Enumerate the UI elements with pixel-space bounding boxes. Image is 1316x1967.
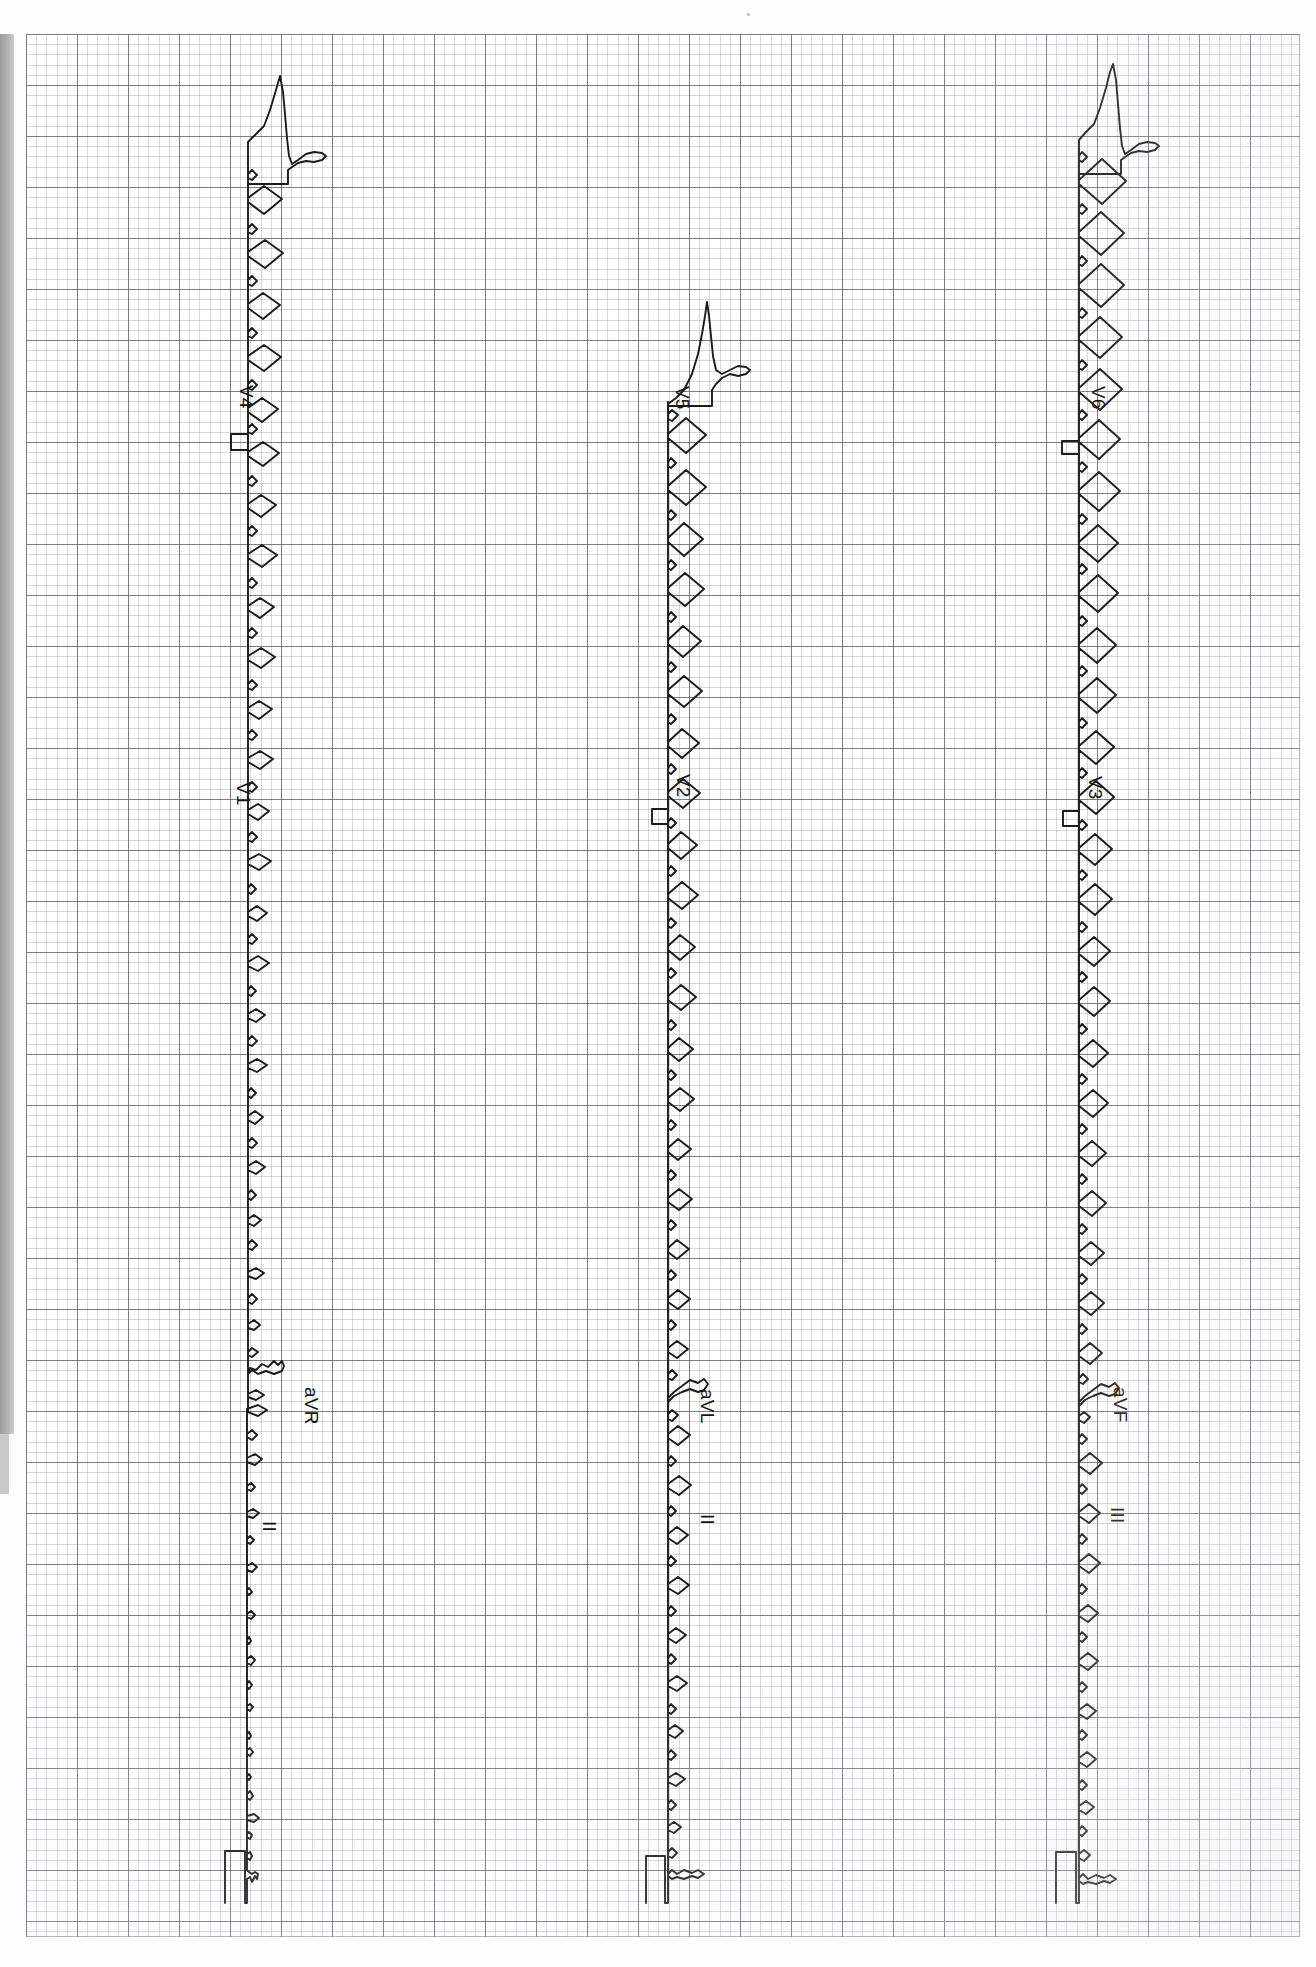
lead-label-V1: V1	[232, 782, 254, 806]
scanner-edge-shadow	[0, 34, 14, 1434]
lead-label-aVF: aVF	[1109, 1387, 1131, 1422]
ecg-trace-channel-1	[26, 34, 446, 1937]
lead-label-III: III	[1106, 1507, 1128, 1523]
ecg-trace-channel-3	[866, 34, 1300, 1937]
ecg-paper: II aVR V1 V4 II aVL V2 V5 III aVF V3 V6	[26, 34, 1300, 1937]
ecg-channel-2: II aVL V2 V5	[446, 34, 866, 1937]
scanner-edge-shadow-lower	[0, 1434, 9, 1494]
lead-label-V5: V5	[671, 386, 693, 410]
lead-label-II: II	[696, 1514, 718, 1525]
lead-label-V4: V4	[235, 385, 257, 409]
ecg-channel-1: II aVR V1 V4	[26, 34, 446, 1937]
lead-label-V2: V2	[672, 774, 694, 798]
ecg-trace-channel-2	[446, 34, 866, 1937]
ecg-channel-3: III aVF V3 V6	[866, 34, 1300, 1937]
lead-label-aVR: aVR	[300, 1387, 322, 1425]
lead-label-V3: V3	[1084, 776, 1106, 800]
scan-speck	[747, 13, 750, 16]
lead-label-II: II	[258, 1521, 280, 1532]
lead-label-V6: V6	[1087, 386, 1109, 410]
lead-label-aVL: aVL	[696, 1389, 718, 1423]
